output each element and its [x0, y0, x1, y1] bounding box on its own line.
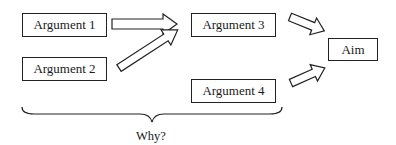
- brace-label-why: Why?: [136, 129, 166, 144]
- diagram-connectors: [0, 0, 396, 145]
- arrow-arg4-to-aim: [287, 60, 328, 91]
- arrow-arg3-to-aim: [287, 9, 328, 40]
- arrow-arg2-to-arg3: [114, 22, 183, 75]
- curly-brace: [22, 107, 282, 122]
